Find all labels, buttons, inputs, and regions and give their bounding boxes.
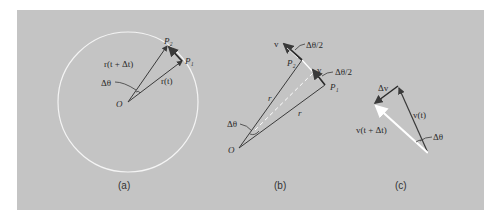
panel-b: v Δθ/2 P₂ v Δθ/2 P₁ r r Δθ O (b) (227, 39, 352, 191)
label-r-left: r (268, 93, 272, 103)
radius-to-p2 (239, 60, 302, 148)
half-angle-leader-top (295, 44, 305, 50)
panel-c: Δv v(t) v(t + Δt) Δθ (c) (356, 83, 443, 191)
label-dtheta-c: Δθ (433, 132, 443, 142)
label-p1: P₁ (184, 56, 194, 66)
panel-a: P₂ P₁ r(t + Δt) r(t) Δθ O (a) (58, 32, 198, 191)
label-origin-b: O (228, 145, 235, 155)
kinematics-diagram: P₂ P₁ r(t + Δt) r(t) Δθ O (a) v Δθ/2 P₂ … (0, 0, 498, 220)
label-r-t: r(t) (161, 76, 173, 86)
label-p1-b: P₁ (329, 82, 339, 92)
label-dtheta: Δθ (101, 78, 111, 88)
caption-b: (b) (274, 180, 286, 191)
velocity-highlight-top (287, 48, 298, 58)
label-p2: P₂ (163, 36, 173, 46)
label-r-right: r (298, 108, 302, 118)
displacement-vector (169, 47, 182, 61)
position-vector-r-t (128, 61, 182, 102)
label-v-mid: v (317, 65, 322, 75)
angle-leader (115, 82, 136, 90)
label-v-t-dt: v(t + Δt) (356, 125, 387, 135)
label-r-t-dt: r(t + Δt) (104, 59, 133, 69)
label-dv: Δv (378, 83, 389, 93)
position-vector-r-t-dt (128, 46, 167, 102)
caption-a: (a) (118, 180, 130, 191)
bisector-dashed (255, 72, 314, 130)
label-half-angle-top: Δθ/2 (306, 40, 323, 50)
label-origin: O (116, 99, 123, 109)
label-half-angle-mid: Δθ/2 (335, 67, 352, 77)
angle-leader-b (240, 124, 252, 131)
label-v-top: v (274, 39, 279, 49)
velocity-vector-t (399, 88, 428, 153)
label-v-t: v(t) (413, 110, 426, 120)
half-angle-leader-mid (322, 72, 333, 76)
caption-c: (c) (395, 180, 407, 191)
label-dtheta-b: Δθ (227, 119, 237, 129)
radius-to-p1 (239, 85, 325, 148)
label-p2-b: P₂ (286, 58, 296, 68)
